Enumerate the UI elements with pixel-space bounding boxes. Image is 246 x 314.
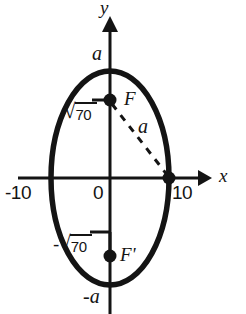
x-axis-arrowhead [198,170,212,186]
y-tick-label-negative-a: -a [83,286,100,306]
upper-radicand: 70 [76,101,92,122]
upper-focus-ordinate-label: √70 [64,101,91,123]
x-axis-label: x [219,166,227,185]
segment-length-label-a: a [138,116,148,136]
focus-point-F-prime [104,250,117,263]
figure-canvas [0,0,246,314]
lower-vinculum [70,234,92,236]
x-tick-label-10: 10 [172,183,192,202]
lower-focus-ordinate-label: - √70 [53,233,87,255]
focus-point-F [104,94,117,107]
y-axis-arrowhead [102,16,118,32]
x-tick-label-minus-10: -10 [5,183,31,202]
lower-radical-glyph: √ [59,233,71,254]
focus-label-F: F [124,89,136,108]
lower-radical-group: √70 [59,233,86,255]
lower-radicand: 70 [71,233,87,254]
upper-radical-glyph: √ [64,101,76,122]
focus-label-F-prime: F' [120,245,136,264]
upper-vinculum [75,102,97,104]
upper-radical-group: √70 [64,101,91,123]
ellipse-figure: y x a -a -10 0 10 F F' a √70 - √70 [0,0,246,314]
y-tick-label-a: a [92,43,102,63]
origin-label: 0 [93,183,103,202]
y-axis-label: y [100,0,108,17]
